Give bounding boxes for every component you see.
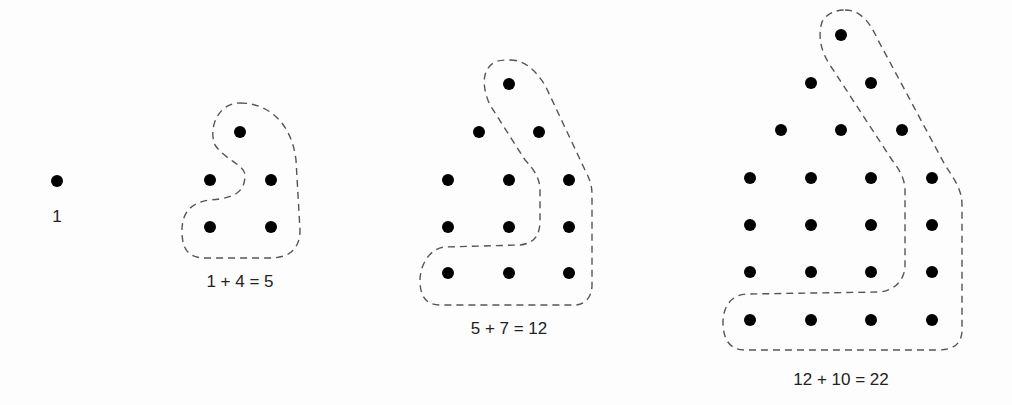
dot bbox=[865, 172, 877, 184]
dot bbox=[563, 174, 575, 186]
dashed-gnomon-outline bbox=[723, 10, 962, 350]
dot bbox=[865, 266, 877, 278]
dot bbox=[805, 172, 817, 184]
pentagonal-diagram: 1 1 + 4 = 5 5 + 7 = 12 12 + 10 = 22 bbox=[0, 0, 1012, 405]
dot bbox=[234, 126, 246, 138]
dot bbox=[744, 266, 756, 278]
dot bbox=[442, 221, 454, 233]
dot bbox=[805, 77, 817, 89]
dot bbox=[805, 314, 817, 326]
dot bbox=[204, 221, 216, 233]
dot bbox=[563, 267, 575, 279]
dot bbox=[51, 175, 63, 187]
dot bbox=[865, 314, 877, 326]
dot bbox=[204, 174, 216, 186]
dot bbox=[503, 174, 515, 186]
dot bbox=[835, 29, 847, 41]
diagram-canvas bbox=[0, 0, 1012, 405]
dot bbox=[775, 124, 787, 136]
figure-2 bbox=[182, 103, 300, 258]
figure-3-label: 5 + 7 = 12 bbox=[471, 319, 548, 339]
dot bbox=[503, 221, 515, 233]
dot bbox=[835, 124, 847, 136]
dot bbox=[865, 219, 877, 231]
dot bbox=[503, 267, 515, 279]
dot bbox=[744, 314, 756, 326]
dot bbox=[744, 172, 756, 184]
dot bbox=[265, 221, 277, 233]
dot bbox=[805, 266, 817, 278]
figure-4-label: 12 + 10 = 22 bbox=[793, 370, 888, 390]
figure-2-label: 1 + 4 = 5 bbox=[206, 272, 273, 292]
dot bbox=[744, 219, 756, 231]
dot bbox=[896, 124, 908, 136]
dot bbox=[265, 174, 277, 186]
figure-1 bbox=[51, 175, 63, 187]
dot bbox=[503, 78, 515, 90]
dot bbox=[533, 126, 545, 138]
dot bbox=[563, 221, 575, 233]
dot bbox=[442, 267, 454, 279]
dot bbox=[926, 172, 938, 184]
dot bbox=[805, 219, 817, 231]
figure-4 bbox=[723, 10, 962, 350]
dot bbox=[473, 126, 485, 138]
dot bbox=[926, 219, 938, 231]
dot bbox=[926, 266, 938, 278]
dot bbox=[442, 174, 454, 186]
dot bbox=[865, 77, 877, 89]
figure-1-label: 1 bbox=[52, 207, 61, 227]
figure-3 bbox=[420, 60, 592, 305]
dot bbox=[926, 314, 938, 326]
